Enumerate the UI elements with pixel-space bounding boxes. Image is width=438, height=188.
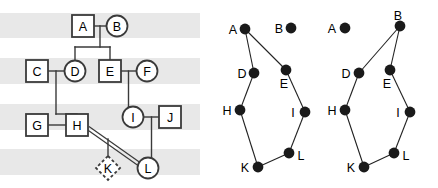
pedigree-label-I: I [131,111,134,125]
graph-middle-node-dot-D [249,68,260,79]
pedigree-label-B: B [113,20,121,34]
pedigree-panel: ABCDEFGHIJKL [0,0,200,188]
pedigree-label-A: A [79,20,88,34]
graph-right-node-label-D: D [341,67,350,81]
pedigree-label-E: E [106,65,114,79]
pedigree-individual-L[interactable]: L [138,158,159,179]
graph-right-node-label-A: A [328,22,337,36]
graph-middle-panel: ABDEHIKL [200,0,318,188]
graph-right-node-D[interactable]: D [341,67,364,81]
pedigree-label-D: D [70,65,79,79]
graph-right-node-label-K: K [347,161,356,175]
pedigree-label-J: J [167,111,173,125]
figure-root: ABCDEFGHIJKL ABDEHIKL ABDEHIKL [0,0,438,188]
graph-right-node-label-E: E [383,77,391,91]
graph-right-node-label-I: I [396,106,399,120]
pedigree-label-G: G [32,119,42,133]
graph-right-node-dot-I [405,107,416,118]
graph-middle-node-label-H: H [222,104,231,118]
pedigree-individual-E[interactable]: E [99,60,121,82]
graph-middle-node-label-K: K [241,161,250,175]
graph-right-node-dot-K [359,162,370,173]
graph-right-node-A[interactable]: A [328,22,351,36]
graph-right-node-L[interactable]: L [389,148,410,163]
graph-right-node-label-B: B [394,9,402,23]
graph-middle-node-dot-A [240,24,251,35]
graph-right-svg: ABDEHIKL [318,0,438,188]
graph-right-edge-H-K [345,110,364,167]
pedigree-relationship-lines [48,26,159,168]
graph-middle-node-label-L: L [298,149,305,163]
graph-right-node-dot-L [389,148,400,159]
graph-middle-node-dot-H [235,105,246,116]
graph-right-node-dot-H [340,105,351,116]
graph-right-node-label-L: L [403,149,410,163]
graph-middle-node-label-E: E [280,77,288,91]
graph-right-panel: ABDEHIKL [318,0,438,188]
graph-middle-edge-E-I [286,70,305,112]
pedigree-individual-B[interactable]: B [107,16,128,37]
pedigree-svg: ABCDEFGHIJKL [0,0,200,188]
graph-middle-node-label-D: D [237,67,246,81]
graph-right-edge-B-D [359,26,400,73]
pedigree-label-C: C [32,65,41,79]
pedigree-label-F: F [143,65,151,79]
graph-middle-svg: ABDEHIKL [200,0,318,188]
pedigree-individual-C[interactable]: C [26,60,48,82]
graph-middle-node-dot-I [300,107,311,118]
pedigree-label-H: H [72,119,81,133]
pedigree-label-K: K [104,162,113,176]
graph-middle-node-label-I: I [291,106,294,120]
graph-middle-node-label-A: A [229,23,238,37]
pedigree-individual-H[interactable]: H [66,114,88,136]
graph-right-node-I[interactable]: I [396,106,415,120]
graph-right-nodes: ABDEHIKL [327,9,415,175]
graph-right-edges [345,26,410,167]
graph-middle-node-L[interactable]: L [284,148,305,163]
graph-middle-node-I[interactable]: I [291,106,310,120]
graph-middle-node-dot-E [281,65,292,76]
graph-right-edge-E-I [390,70,410,112]
pedigree-individual-I[interactable]: I [123,107,144,128]
graph-right-node-dot-A [340,23,351,34]
graph-middle-nodes: ABDEHIKL [222,22,310,175]
graph-middle-edge-H-K [240,110,258,167]
graph-middle-node-A[interactable]: A [229,23,251,37]
graph-middle-node-dot-L [284,148,295,159]
pedigree-individual-D[interactable]: D [65,61,86,82]
graph-right-node-dot-E [385,65,396,76]
pedigree-individual-A[interactable]: A [72,15,94,37]
graph-middle-node-label-B: B [275,22,283,36]
graph-middle-node-dot-K [253,162,264,173]
graph-middle-edges [240,29,305,167]
graph-right-edge-B-E [390,26,400,70]
graph-middle-node-dot-B [286,23,297,34]
pedigree-individual-J[interactable]: J [159,106,181,128]
graph-middle-node-D[interactable]: D [237,67,259,81]
pedigree-individual-G[interactable]: G [26,114,48,136]
pedigree-individual-F[interactable]: F [137,61,158,82]
graph-right-node-B[interactable]: B [394,9,406,31]
graph-right-node-dot-D [354,68,365,79]
graph-right-node-K[interactable]: K [347,161,370,175]
graph-right-node-label-H: H [327,104,336,118]
graph-middle-node-B[interactable]: B [275,22,297,36]
pedigree-label-L: L [145,162,152,176]
graph-middle-node-K[interactable]: K [241,161,264,175]
